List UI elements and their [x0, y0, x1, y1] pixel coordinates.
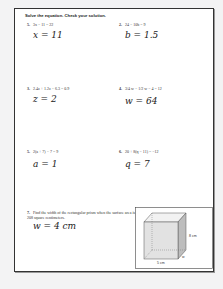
problem-answer: b = 1.5: [125, 30, 158, 40]
problem-equation: 3/4 w − 1/2 w − 4 = 12: [125, 86, 162, 91]
problem-7: 7.Find the width of the rectangular pris…: [27, 210, 137, 231]
rectangular-prism-figure: 8 cm 5 cm w: [135, 207, 213, 269]
worksheet: Solve the equation. Check your solution.…: [14, 8, 214, 272]
problem-equation: 20 + 8(q − 11) = −12: [125, 149, 159, 154]
problem-number: 2.: [119, 22, 122, 27]
problem-answer: q = 7: [125, 159, 159, 169]
problem-number: 3.: [27, 86, 30, 91]
problem-equation: 2(a + 7) − 7 = 9: [33, 149, 58, 154]
problem-number: 5.: [27, 22, 30, 27]
problem-number: 5.: [27, 149, 30, 154]
problem-3: 3.2.4z + 1.2z − 6.3 = 0.9 z = 2: [27, 86, 69, 104]
height-label: 8 cm: [189, 234, 197, 238]
problem-5: 5.2(a + 7) − 7 = 9 a = 1: [27, 149, 58, 169]
problem-equation: 2.4z + 1.2z − 6.3 = 0.9: [33, 86, 69, 91]
problem-4: 4.3/4 w − 1/2 w − 4 = 12 w = 64: [119, 86, 162, 106]
problem-answer: w = 64: [125, 96, 162, 106]
problem-1: 5.3x − 11 = 22 x = 11: [27, 22, 63, 40]
problem-number: 6.: [119, 149, 122, 154]
length-label: 5 cm: [157, 261, 165, 265]
problem-answer: w = 4 cm: [33, 221, 137, 231]
problem-answer: x = 11: [33, 30, 63, 40]
problem-equation: Find the width of the rectangular prism …: [27, 210, 135, 220]
problem-answer: a = 1: [33, 159, 58, 169]
problem-6: 6.20 + 8(q − 11) = −12 q = 7: [119, 149, 159, 169]
problem-answer: z = 2: [33, 94, 69, 104]
problem-equation: 3x − 11 = 22: [33, 22, 53, 27]
problem-equation: 24 − 10b = 9: [125, 22, 146, 27]
problem-number: 4.: [119, 86, 122, 91]
instructions: Solve the equation. Check your solution.: [25, 13, 106, 18]
problem-2: 2.24 − 10b = 9 b = 1.5: [119, 22, 158, 40]
